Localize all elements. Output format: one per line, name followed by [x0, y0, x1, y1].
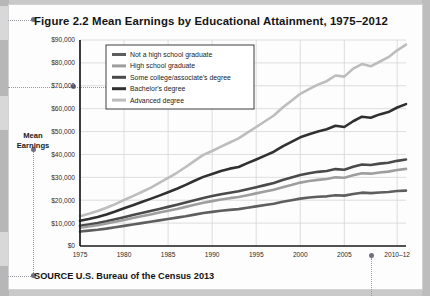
y-axis-tick-label: $50,000: [51, 128, 75, 135]
y-axis-tick-label: $30,000: [51, 174, 75, 181]
y-axis-tick-label: $0: [68, 242, 76, 249]
y-axis-tick-label: $70,000: [51, 82, 75, 89]
legend-label: Some college/associate's degree: [130, 74, 231, 82]
x-axis-tick-label: 2005: [337, 251, 352, 258]
x-axis-tick-label: 2000: [293, 251, 308, 258]
y-axis-tick-label: $60,000: [51, 105, 75, 112]
page-notch-bottom: [0, 232, 9, 266]
guide-xaxis: [371, 258, 372, 296]
source-note: SOURCE U.S. Bureau of the Census 2013: [34, 271, 214, 281]
y-axis-tick-label: $20,000: [51, 197, 75, 204]
x-axis-tick-label: 1980: [117, 251, 132, 258]
y-axis-tick-label: $80,000: [51, 59, 75, 66]
page-notch-top: [0, 6, 9, 40]
legend-label: Bachelor's degree: [130, 85, 185, 93]
x-axis-tick-label: 1975: [73, 251, 88, 258]
page-right-edge: [422, 0, 430, 296]
x-axis-tick-label: 1995: [249, 251, 264, 258]
x-axis-tick-label: 1990: [205, 251, 220, 258]
y-axis-tick-label: $90,000: [51, 36, 75, 43]
y-axis-tick-label: $40,000: [51, 151, 75, 158]
chart-area: $0$10,000$20,000$30,000$40,000$50,000$60…: [34, 30, 412, 262]
y-axis-tick-label: $10,000: [51, 220, 75, 227]
legend-label: Not a high school graduate: [130, 51, 213, 59]
earnings-line-chart: $0$10,000$20,000$30,000$40,000$50,000$60…: [34, 30, 412, 262]
legend-label: Advanced degree: [130, 97, 184, 105]
x-axis-tick-label: 2010–12: [384, 251, 410, 258]
scanned-page: Figure 2.2 Mean Earnings by Educational …: [0, 0, 430, 296]
figure-title: Figure 2.2 Mean Earnings by Educational …: [34, 15, 388, 27]
legend-label: High school graduate: [130, 62, 195, 70]
page-notch-mid: [0, 96, 9, 130]
x-axis-tick-label: 1985: [161, 251, 176, 258]
series-line: [80, 104, 406, 221]
